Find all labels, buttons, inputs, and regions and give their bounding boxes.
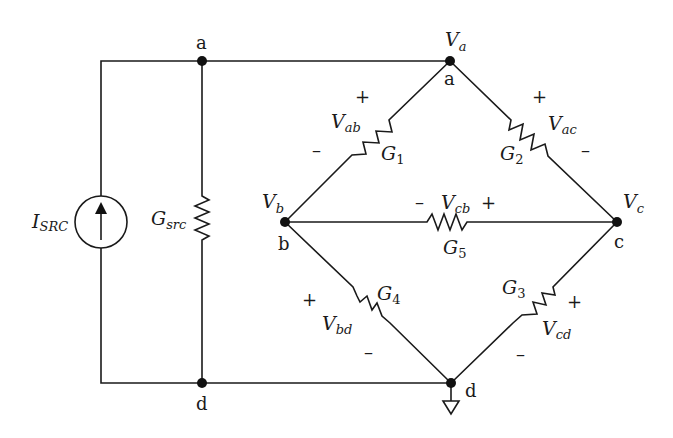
label-node-a-right: a	[444, 68, 455, 89]
label-vcd-minus: –	[516, 344, 525, 365]
label-g5: G5	[443, 236, 466, 261]
label-vbd: Vbd	[322, 312, 352, 337]
arrow-up-icon	[95, 202, 107, 214]
label-node-a-left: a	[196, 32, 207, 53]
resistor-g3	[451, 222, 617, 383]
label-vcb-minus: –	[415, 192, 424, 213]
node-a-right	[445, 56, 455, 66]
label-vac-minus: –	[581, 140, 590, 161]
label-node-d-left: d	[196, 393, 208, 414]
current-source	[75, 196, 127, 248]
label-isrc: ISRC	[31, 210, 68, 234]
label-vcd: Vcd	[542, 317, 571, 342]
label-node-b: b	[278, 233, 290, 254]
label-gsrc: Gsrc	[151, 207, 187, 232]
node-c	[612, 217, 622, 227]
circuit-diagram: a a b c d d Va Vb Vc ISRC Gsrc G1 Vab + …	[0, 0, 673, 438]
label-node-c: c	[614, 231, 624, 252]
label-vab: Vab	[331, 110, 361, 135]
label-vac-plus: +	[532, 86, 547, 107]
label-vcb: Vcb	[441, 191, 470, 216]
resistor-gsrc	[195, 61, 209, 383]
node-d-left	[197, 378, 207, 388]
label-vac: Vac	[548, 112, 577, 137]
label-node-d-right: d	[465, 380, 477, 401]
wire-top	[101, 61, 450, 196]
label-va: Va	[445, 28, 467, 54]
label-vcb-plus: +	[481, 192, 496, 213]
resistor-g5	[285, 214, 617, 230]
node-b	[280, 217, 290, 227]
label-vb: Vb	[262, 190, 284, 216]
label-vcd-plus: +	[567, 291, 582, 312]
label-vc: Vc	[623, 190, 645, 216]
node-d-right	[446, 378, 456, 388]
node-a-left	[197, 56, 207, 66]
label-g1: G1	[381, 142, 404, 167]
label-g3: G3	[502, 276, 525, 301]
label-vbd-plus: +	[302, 289, 317, 310]
wire-bottom	[101, 248, 451, 383]
label-g2: G2	[500, 142, 523, 167]
label-vab-minus: –	[312, 140, 321, 161]
label-vab-plus: +	[355, 86, 370, 107]
label-g4: G4	[377, 282, 400, 307]
label-vbd-minus: –	[364, 342, 373, 363]
